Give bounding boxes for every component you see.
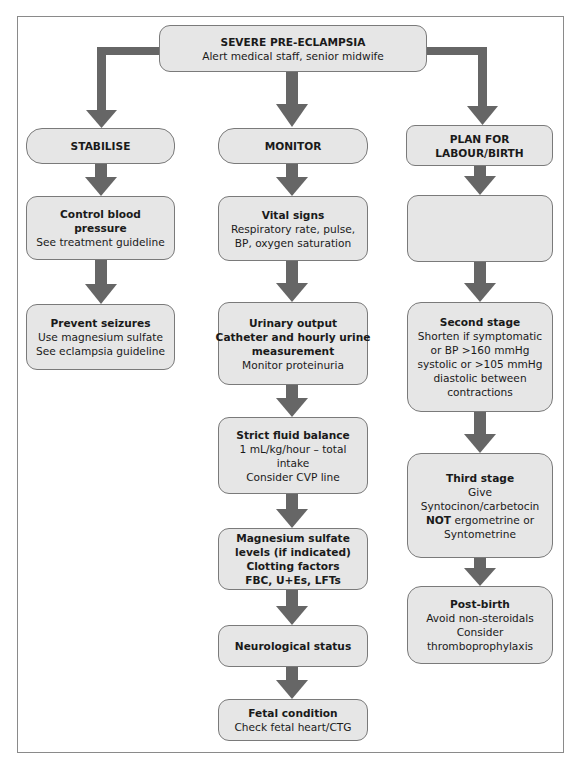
third-stage-box: Third stage Give Syntocinon/carbetocin N… [407, 453, 553, 558]
arrowhead-icon [467, 106, 498, 125]
step-text: systolic or >105 mmHg [417, 357, 542, 371]
step-text: See treatment guideline [36, 235, 164, 249]
step-title: Strict fluid balance [236, 428, 349, 442]
step-text: Avoid non-steroidals [426, 611, 534, 625]
plan-label: LABOUR/BIRTH [435, 146, 523, 160]
stabilise-label: STABILISE [71, 139, 131, 153]
arrowhead-icon [85, 177, 117, 196]
step-text: NOT ergometrine or [426, 513, 534, 527]
arrow-to-plan [427, 47, 487, 106]
arrowhead-icon [276, 177, 308, 196]
step-text: Check fetal heart/CTG [234, 720, 351, 734]
step-text: ergometrine or [451, 514, 534, 526]
step-text: contractions [447, 385, 513, 399]
step-text: Monitor proteinuria [242, 358, 344, 372]
step-text: diastolic between [433, 371, 526, 385]
step-title: Neurological status [235, 639, 351, 653]
arrowhead-icon [464, 434, 496, 453]
arrowhead-icon [464, 176, 496, 195]
arrowhead-icon [464, 568, 496, 586]
plan-for-labour-header: PLAN FOR LABOUR/BIRTH [406, 125, 553, 166]
step-title: Fetal condition [248, 706, 337, 720]
step-text: Consider CVP line [246, 470, 340, 484]
arrowhead-icon [276, 606, 308, 625]
step-text: Use magnesium sulfate [38, 330, 163, 344]
arrow-to-stabilise [97, 47, 159, 110]
neurological-status-box: Neurological status [218, 625, 368, 667]
empty-step-box [407, 195, 553, 262]
second-stage-box: Second stage Shorten if symptomatic or B… [407, 302, 553, 412]
step-title: Magnesium sulfate [236, 531, 350, 545]
step-text: Syntocinon/carbetocin [421, 499, 540, 513]
step-title: Prevent seizures [50, 316, 150, 330]
step-text: Syntometrine [444, 527, 516, 541]
step-text: thromboprophylaxis [427, 639, 533, 653]
vital-signs-box: Vital signs Respiratory rate, pulse, BP,… [218, 196, 368, 261]
arrowhead-icon [276, 398, 308, 417]
magnesium-sulfate-box: Magnesium sulfate levels (if indicated) … [218, 528, 368, 590]
plan-label: PLAN FOR [450, 132, 510, 146]
step-title: Vital signs [262, 208, 325, 222]
top-title: SEVERE PRE-ECLAMPSIA [221, 35, 366, 49]
monitor-header: MONITOR [218, 128, 368, 164]
post-birth-box: Post-birth Avoid non-steroidals Consider… [407, 586, 553, 664]
prevent-seizures-box: Prevent seizures Use magnesium sulfate S… [26, 304, 175, 370]
step-title: Third stage [446, 471, 514, 485]
step-title: Second stage [440, 315, 520, 329]
step-title: Post-birth [450, 597, 510, 611]
step-text: Give [468, 485, 492, 499]
strict-fluid-balance-box: Strict fluid balance 1 mL/kg/hour – tota… [218, 417, 368, 494]
step-text: See eclampsia guideline [36, 344, 165, 358]
arrowhead-icon [464, 283, 496, 302]
step-title: measurement [252, 344, 334, 358]
arrowhead-icon [276, 283, 308, 302]
urinary-output-box: Urinary output Catheter and hourly urine… [218, 302, 368, 385]
arrow-to-monitor [286, 72, 298, 105]
arrowhead-icon [276, 680, 308, 699]
monitor-label: MONITOR [265, 139, 322, 153]
step-text: or BP >160 mmHg [430, 343, 529, 357]
top-subtitle: Alert medical staff, senior midwife [202, 49, 384, 63]
fetal-condition-box: Fetal condition Check fetal heart/CTG [218, 699, 368, 741]
step-title: levels (if indicated) [235, 545, 351, 559]
not-emphasis: NOT [426, 514, 451, 526]
step-text: intake [277, 456, 310, 470]
arrowhead-icon [85, 284, 117, 304]
step-text: Consider [457, 625, 504, 639]
step-title: FBC, U+Es, LFTs [245, 573, 341, 587]
step-text: 1 mL/kg/hour – total [240, 442, 347, 456]
step-title: Catheter and hourly urine [216, 330, 371, 344]
step-title: Clotting factors [246, 559, 339, 573]
step-title: pressure [74, 221, 127, 235]
step-text: Shorten if symptomatic [418, 329, 542, 343]
stabilise-header: STABILISE [26, 128, 175, 164]
step-text: Respiratory rate, pulse, [231, 222, 355, 236]
severe-pre-eclampsia-box: SEVERE PRE-ECLAMPSIA Alert medical staff… [159, 25, 427, 72]
step-title: Control blood [60, 207, 141, 221]
step-title: Urinary output [249, 316, 337, 330]
arrowhead-icon [276, 104, 308, 127]
arrowhead-icon [86, 110, 117, 128]
control-blood-pressure-box: Control blood pressure See treatment gui… [26, 196, 175, 260]
step-text: BP, oxygen saturation [235, 236, 351, 250]
arrowhead-icon [276, 509, 308, 528]
